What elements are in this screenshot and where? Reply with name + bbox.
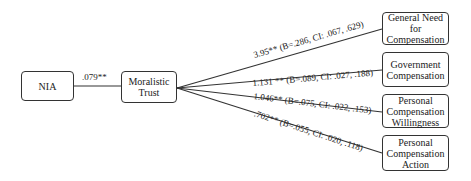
- outcome-government-node: Government Compensation: [382, 52, 449, 87]
- outcome-general-need-node: General Need for Compensation: [382, 12, 449, 45]
- outcome-personal-action-node: Personal Compensation Action: [382, 135, 449, 171]
- outcome-label: Government Compensation: [387, 59, 445, 81]
- moralistic-trust-node: Moralistic Trust: [121, 71, 177, 103]
- outcome-label: General Need for Compensation: [387, 12, 445, 45]
- nia-node: NIA: [21, 71, 74, 101]
- nia-label: NIA: [39, 81, 57, 92]
- outcome-label: Personal Compensation Willingness: [387, 95, 445, 128]
- outcome-label: Personal Compensation Action: [387, 137, 445, 170]
- nia-trust-coefficient: .079**: [82, 72, 107, 82]
- outcome-personal-willingness-node: Personal Compensation Willingness: [382, 94, 449, 128]
- moralistic-trust-label: Moralistic Trust: [128, 76, 169, 98]
